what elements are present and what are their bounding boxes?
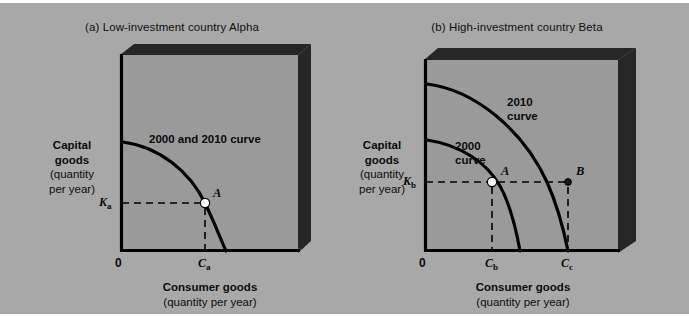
panel-a-y-tick-Ka: Ka xyxy=(99,195,112,210)
panel-b-y-tick-Kb-base: K xyxy=(403,174,411,188)
panel-b-curve-label-2010: 2010 curve xyxy=(507,96,538,123)
panel-a-x-axis-line1: Consumer goods xyxy=(130,280,290,295)
panel-a-point-label-A: A xyxy=(213,186,221,201)
panel-b-point-A xyxy=(487,177,496,186)
panel-b-shadow-right xyxy=(618,48,636,253)
panel-b-y-axis-line2: goods xyxy=(340,153,424,168)
panel-b-y-axis-line1: Capital xyxy=(340,138,424,153)
panel-b-curve-label-2000-line1: 2000 xyxy=(455,140,486,154)
panel-b-x-tick-Cc-base: C xyxy=(561,256,569,270)
panel-b-point-label-B: B xyxy=(576,164,584,179)
panel-a-y-tick-Ka-sub: a xyxy=(107,201,112,211)
panel-b-x-tick-Cb-base: C xyxy=(485,256,493,270)
panel-b-x-tick-Cb: Cb xyxy=(485,256,498,271)
panel-a-shadow-right xyxy=(298,44,311,253)
panel-b-y-tick-Kb: Kb xyxy=(403,174,416,189)
panel-b-curve-label-2010-line2: curve xyxy=(507,110,538,124)
panel-a-y-axis-line3: (quantity xyxy=(30,167,114,182)
economics-figure: (a) Low-investment country Alpha Capital… xyxy=(0,0,689,317)
panel-a-y-axis-title: Capital goods (quantity per year) xyxy=(30,138,114,197)
panel-b-curve-label-2000: 2000 curve xyxy=(455,140,486,167)
panel-b-x-tick-Cb-sub: b xyxy=(493,262,498,272)
panel-b-origin-label: 0 xyxy=(419,256,426,270)
panel-high-investment-beta: (b) High-investment country Beta xyxy=(345,0,689,317)
panel-b-x-axis-line1: Consumer goods xyxy=(443,280,603,295)
panel-b-point-B xyxy=(565,179,572,186)
panel-b-shadow-top xyxy=(424,48,636,60)
panel-a-y-axis-line2: goods xyxy=(30,153,114,168)
panel-a-shadow-top xyxy=(120,44,311,55)
panel-low-investment-alpha: (a) Low-investment country Alpha Capital… xyxy=(0,0,344,317)
panel-a-curve-label-2000-2010: 2000 and 2010 curve xyxy=(149,133,261,147)
panel-a-origin-label: 0 xyxy=(115,256,122,270)
panel-a-x-axis-line2: (quantity per year) xyxy=(130,295,290,310)
panel-a-x-axis-title: Consumer goods (quantity per year) xyxy=(130,280,290,309)
panel-b-curve-label-2010-line1: 2010 xyxy=(507,96,538,110)
panel-b-y-tick-Kb-sub: b xyxy=(411,180,416,190)
panel-a-point-A xyxy=(200,198,209,207)
panel-b-x-tick-Cc: Cc xyxy=(561,256,573,271)
panel-a-y-tick-Ka-base: K xyxy=(99,195,107,209)
panel-a-y-axis-line1: Capital xyxy=(30,138,114,153)
panel-b-x-tick-Cc-sub: c xyxy=(569,262,573,272)
panel-a-x-tick-Ca: Ca xyxy=(198,256,211,271)
panel-b-x-axis-title: Consumer goods (quantity per year) xyxy=(443,280,603,309)
panel-a-x-tick-Ca-sub: a xyxy=(206,262,211,272)
panel-b-curve-label-2000-line2: curve xyxy=(455,154,486,168)
panel-b-x-axis-line2: (quantity per year) xyxy=(443,295,603,310)
panel-b-point-label-A: A xyxy=(501,164,509,179)
panel-a-plot-area xyxy=(120,55,298,252)
panel-a-x-tick-Ca-base: C xyxy=(198,256,206,270)
